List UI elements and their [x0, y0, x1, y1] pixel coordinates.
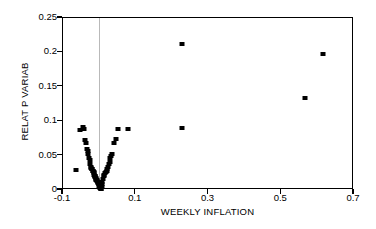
- x-axis-tick-mark: [61, 189, 62, 194]
- plot-area: [62, 17, 353, 189]
- scatter-chart: 00.050.10.150.20.25 -0.10.10.30.50.7 WEE…: [0, 0, 376, 229]
- y-axis-tick-label: 0.05: [39, 150, 58, 160]
- data-point: [302, 96, 307, 100]
- data-point: [82, 127, 87, 131]
- y-axis-tick-mark: [57, 51, 62, 52]
- y-axis-tick-mark: [57, 154, 62, 155]
- y-axis-tick-label: 0.15: [39, 81, 58, 91]
- data-point: [111, 141, 116, 145]
- x-axis-tick-mark: [207, 189, 208, 194]
- y-axis-title: RELAT P VARIAB: [19, 32, 30, 172]
- data-point: [84, 141, 89, 145]
- y-axis-tick-mark: [57, 120, 62, 121]
- data-point: [110, 152, 115, 156]
- data-point: [116, 127, 121, 131]
- x-axis-tick-mark: [134, 189, 135, 194]
- data-point: [107, 160, 112, 164]
- y-axis-tick-mark: [57, 85, 62, 86]
- data-point: [114, 137, 119, 141]
- data-point: [86, 152, 91, 156]
- y-axis-tick-label: 0.1: [44, 115, 57, 125]
- x-axis-tick-mark: [352, 189, 353, 194]
- y-axis-tick-label: 0.25: [39, 12, 58, 22]
- x-axis-tick-mark: [280, 189, 281, 194]
- y-axis-tick-mark: [57, 16, 62, 17]
- data-point: [321, 52, 326, 56]
- data-point: [74, 168, 79, 172]
- data-point: [180, 42, 185, 46]
- data-point: [180, 126, 185, 130]
- y-axis-tick-label: 0.2: [44, 46, 57, 56]
- x-axis-title: WEEKLY INFLATION: [62, 206, 353, 217]
- data-point: [126, 127, 131, 131]
- vertical-gridline: [99, 18, 100, 188]
